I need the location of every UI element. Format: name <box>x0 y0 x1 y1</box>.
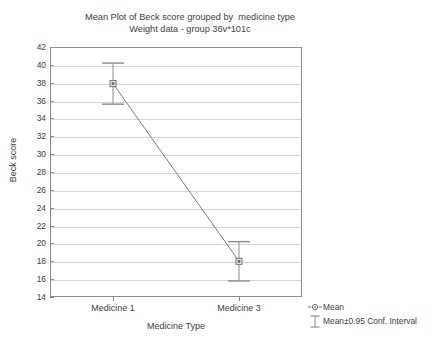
y-axis-tick-label: 42 <box>30 43 46 51</box>
y-axis-tick-mark <box>50 83 54 84</box>
gridline <box>51 66 301 67</box>
y-axis-tick-label: 20 <box>30 239 46 247</box>
gridline <box>51 209 301 210</box>
y-axis-title: Beck score <box>8 125 18 195</box>
y-axis-tick-label: 36 <box>30 97 46 105</box>
chart-title-block: Mean Plot of Beck score grouped by medic… <box>0 11 380 35</box>
y-axis-tick-label: 16 <box>30 275 46 283</box>
y-axis-tick-mark <box>50 47 54 48</box>
chart-legend: MeanMean±0.95 Conf. Interval <box>307 300 437 328</box>
gridline <box>51 84 301 85</box>
y-axis-tick-label: 40 <box>30 61 46 69</box>
gridline <box>51 102 301 103</box>
x-axis-tick-mark <box>239 297 240 301</box>
y-axis-tick-mark <box>50 118 54 119</box>
gridline <box>51 262 301 263</box>
y-axis-tick-label: 38 <box>30 79 46 87</box>
y-axis-tick-label: 34 <box>30 114 46 122</box>
y-axis-tick-label: 30 <box>30 150 46 158</box>
error-bar-marker <box>307 314 323 328</box>
y-axis-tick-label: 18 <box>30 257 46 265</box>
y-axis-tick-label: 22 <box>30 222 46 230</box>
chart-subtitle: Weight data - group 36v*101c <box>0 23 380 35</box>
gridline <box>51 155 301 156</box>
gridline <box>51 137 301 138</box>
y-axis-tick-label: 28 <box>30 168 46 176</box>
y-axis-tick-mark <box>50 136 54 137</box>
y-axis-tick-mark <box>50 65 54 66</box>
plot-area <box>50 47 302 297</box>
gridline <box>51 173 301 174</box>
gridline <box>51 191 301 192</box>
x-axis-tick-label: Medicine 3 <box>184 303 294 313</box>
y-axis-tick-mark <box>50 190 54 191</box>
y-axis-tick-mark <box>50 261 54 262</box>
y-axis-tick-labels: 424038363432302826242220181614 <box>28 0 46 342</box>
y-axis-tick-mark <box>50 243 54 244</box>
gridline <box>51 119 301 120</box>
circle-dot-marker <box>307 300 323 314</box>
y-axis-tick-mark <box>50 297 54 298</box>
gridline <box>51 280 301 281</box>
y-axis-tick-mark <box>50 208 54 209</box>
y-axis-tick-mark <box>50 226 54 227</box>
y-axis-tick-label: 26 <box>30 186 46 194</box>
y-axis-tick-mark <box>50 279 54 280</box>
gridline <box>51 244 301 245</box>
y-axis-tick-mark <box>50 101 54 102</box>
y-axis-tick-label: 14 <box>30 293 46 301</box>
legend-row: Mean <box>307 300 437 314</box>
x-axis-tick-label: Medicine 1 <box>58 303 168 313</box>
y-axis-tick-label: 32 <box>30 132 46 140</box>
y-axis-tick-mark <box>50 154 54 155</box>
x-axis-title: Medicine Type <box>50 321 302 331</box>
chart-title: Mean Plot of Beck score grouped by medic… <box>0 11 380 23</box>
legend-row: Mean±0.95 Conf. Interval <box>307 314 437 328</box>
mean-plot-chart: Mean Plot of Beck score grouped by medic… <box>0 0 439 342</box>
legend-label: Mean±0.95 Conf. Interval <box>323 316 417 326</box>
legend-label: Mean <box>323 302 344 312</box>
gridline <box>51 227 301 228</box>
y-axis-tick-label: 24 <box>30 204 46 212</box>
y-axis-tick-mark <box>50 172 54 173</box>
x-axis-tick-mark <box>113 297 114 301</box>
